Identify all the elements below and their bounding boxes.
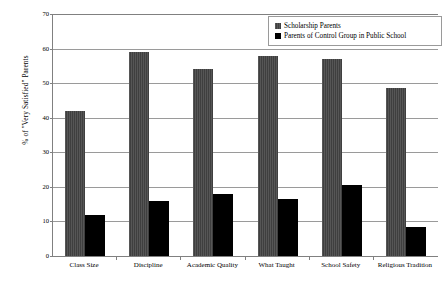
bar-group xyxy=(65,14,105,256)
bar-group xyxy=(258,14,298,256)
bar xyxy=(213,194,233,256)
x-axis-tick-mark xyxy=(116,256,117,260)
bar xyxy=(386,88,406,256)
y-axis-tick-label: 40 xyxy=(42,114,49,121)
x-axis-tick-mark xyxy=(309,256,310,260)
x-axis-category-label: School Safety xyxy=(309,262,373,269)
bars-layer xyxy=(53,14,438,256)
legend-label: Parents of Control Group in Public Schoo… xyxy=(284,33,406,40)
x-axis-category-labels: Class SizeDisciplineAcademic QualityWhat… xyxy=(52,262,437,276)
legend-item: Scholarship Parents xyxy=(275,23,435,30)
y-axis-tick-label: 50 xyxy=(42,80,49,87)
y-axis-tick-label: 20 xyxy=(42,184,49,191)
x-axis-tick-mark xyxy=(245,256,246,260)
bar xyxy=(278,199,298,256)
bar-group xyxy=(386,14,426,256)
legend-item: Parents of Control Group in Public Schoo… xyxy=(275,33,435,40)
x-axis-tick-mark xyxy=(180,256,181,260)
bar xyxy=(342,185,362,256)
legend-swatch-gray-icon xyxy=(275,23,281,29)
x-axis-category-label: Discipline xyxy=(116,262,180,269)
bar xyxy=(258,56,278,257)
bar-group xyxy=(193,14,233,256)
y-axis-tick-mark xyxy=(50,256,53,257)
bar xyxy=(406,227,426,256)
legend-swatch-black-icon xyxy=(275,33,281,39)
y-axis-tick-label: 60 xyxy=(42,45,49,52)
bar-group xyxy=(322,14,362,256)
x-axis-category-label: Religious Tradition xyxy=(373,262,437,269)
bar xyxy=(149,201,169,256)
y-axis-tick-label: 0 xyxy=(46,253,49,260)
x-axis-tick-mark xyxy=(373,256,374,260)
y-axis-title: % of "Very Satisfied" Parents xyxy=(22,30,30,170)
y-axis-tick-label: 10 xyxy=(42,218,49,225)
bar xyxy=(65,111,85,256)
x-axis-category-label: Class Size xyxy=(52,262,116,269)
bar-group xyxy=(129,14,169,256)
y-axis-tick-label: 30 xyxy=(42,149,49,156)
plot-area: 010203040506070 xyxy=(52,14,438,257)
bar-chart: % of "Very Satisfied" Parents 0102030405… xyxy=(0,0,447,289)
legend-label: Scholarship Parents xyxy=(284,23,341,30)
bar xyxy=(85,215,105,256)
y-axis-tick-label: 70 xyxy=(42,11,49,18)
chart-legend: Scholarship Parents Parents of Control G… xyxy=(268,16,442,46)
bar xyxy=(322,59,342,256)
bar xyxy=(193,69,213,256)
x-axis-category-label: Academic Quality xyxy=(180,262,244,269)
x-axis-category-label: What Taught xyxy=(245,262,309,269)
bar xyxy=(129,52,149,256)
